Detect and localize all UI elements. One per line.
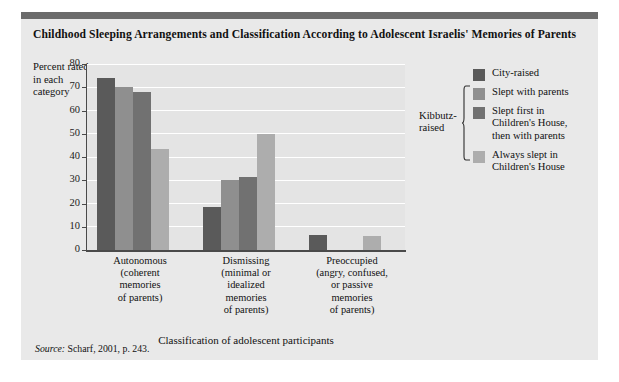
y-axis-tick-label: 0 [58, 243, 80, 254]
bar [97, 78, 115, 250]
y-axis-tick-label: 40 [58, 150, 80, 161]
x-axis-group-label-line: or passive [287, 279, 417, 291]
legend-label-line: Slept with parents [492, 86, 596, 98]
y-axis-tick-label: 20 [58, 197, 80, 208]
gridline [87, 87, 405, 88]
y-axis-tick-label: 80 [58, 57, 80, 68]
legend-swatch [473, 151, 485, 163]
bar [239, 177, 257, 250]
y-axis-tick-mark [82, 64, 86, 65]
x-axis-group-label-line: (angry, confused, [287, 267, 417, 279]
chart-title: Childhood Sleeping Arrangements and Clas… [33, 28, 589, 41]
kibbutz-brace-icon [461, 85, 471, 161]
y-axis-tick-label: 60 [58, 104, 80, 115]
y-axis-tick-mark [82, 87, 86, 88]
y-axis-tick-mark [82, 180, 86, 181]
figure-panel: Childhood Sleeping Arrangements and Clas… [21, 12, 598, 360]
source-text: Scharf, 2001, p. 243. [65, 343, 149, 354]
legend-label-line: Children's House, [492, 117, 596, 129]
y-axis-tick-mark [82, 134, 86, 135]
top-rule-decoration [21, 12, 598, 19]
legend-label: Slept first inChildren's House,then with… [492, 105, 596, 142]
legend-label: Always slept inChildren's House [492, 149, 596, 174]
bar [309, 235, 327, 250]
y-axis-tick-mark [82, 204, 86, 205]
x-axis-line [86, 250, 406, 252]
x-axis-group-label-line: memories [287, 292, 417, 304]
bar [133, 92, 151, 250]
y-axis-tick-label: 70 [58, 80, 80, 91]
legend-label-line: Children's House [492, 161, 596, 173]
x-axis-group-label-line: Preoccupied [287, 255, 417, 267]
y-axis-tick-mark [82, 157, 86, 158]
bar [363, 236, 381, 250]
bar [221, 180, 239, 250]
y-axis-tick-label: 30 [58, 173, 80, 184]
legend-swatch [473, 107, 485, 119]
bar [151, 149, 169, 250]
legend-swatch [473, 69, 485, 81]
x-axis-group-label: Preoccupied(angry, confused,or passiveme… [287, 255, 417, 316]
bar [115, 87, 133, 250]
gridline [87, 64, 405, 65]
y-axis-tick-label: 10 [58, 220, 80, 231]
y-axis-tick-mark [82, 111, 86, 112]
x-axis-group-label-line: of parents) [287, 304, 417, 316]
bar [203, 207, 221, 250]
legend-swatch [473, 88, 485, 100]
y-axis-tick-label: 50 [58, 127, 80, 138]
plot-area [87, 64, 405, 250]
legend-label-line: Always slept in [492, 149, 596, 161]
y-axis-tick-labels: 01020304050607080 [53, 12, 80, 360]
kibbutz-raised-label: Kibbutz-raised [419, 110, 464, 135]
kibbutz-raised-label-line: raised [419, 122, 464, 134]
legend-label-line: City-raised [492, 67, 596, 79]
y-axis-line [86, 64, 87, 251]
source-note: Source: Scharf, 2001, p. 243. [35, 343, 149, 354]
legend-label-line: then with parents [492, 130, 596, 142]
legend-label: City-raised [492, 67, 596, 79]
source-label: Source: [35, 343, 65, 354]
legend-label-line: Slept first in [492, 105, 596, 117]
legend-label: Slept with parents [492, 86, 596, 98]
y-axis-tick-mark [82, 227, 86, 228]
y-axis-tick-mark [82, 250, 86, 251]
kibbutz-raised-label-line: Kibbutz- [419, 110, 464, 122]
bar [257, 134, 275, 250]
